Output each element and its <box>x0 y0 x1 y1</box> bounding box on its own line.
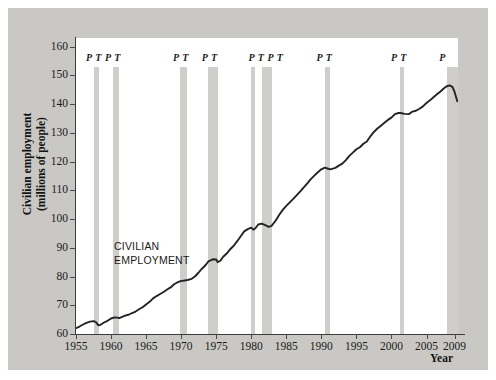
x-tick-label: 1970 <box>161 341 201 353</box>
peak-trough-label: P T <box>317 52 333 63</box>
peak-trough-label: P <box>439 52 446 63</box>
y-axis-title-line1: Civilian employment <box>20 64 34 264</box>
x-tick-label: 1990 <box>301 341 341 353</box>
x-tick-label: 1995 <box>336 341 376 353</box>
x-tick-label: 1985 <box>266 341 306 353</box>
x-axis-title: Year <box>430 352 453 364</box>
plot-area <box>76 38 458 334</box>
y-tick-mark <box>70 104 76 105</box>
x-tick-mark <box>356 334 357 339</box>
y-axis-title-line2: (millions of people) <box>34 64 48 264</box>
peak-trough-label: P T <box>86 52 102 63</box>
x-tick-mark <box>111 334 112 339</box>
peak-trough-label: P T <box>391 52 407 63</box>
x-tick-mark <box>146 334 147 339</box>
y-tick-mark <box>70 305 76 306</box>
x-tick-mark <box>455 334 456 339</box>
x-tick-mark <box>286 334 287 339</box>
y-tick-mark <box>70 219 76 220</box>
chart-plot-wrapper: 60708090100110120130140150160 1955196019… <box>0 0 496 380</box>
x-tick-label: 1975 <box>196 341 236 353</box>
y-tick-label: 70 <box>42 299 68 311</box>
x-tick-label: 1965 <box>126 341 166 353</box>
y-tick-mark <box>70 190 76 191</box>
y-tick-mark <box>70 133 76 134</box>
y-tick-mark <box>70 47 76 48</box>
x-tick-label: 1980 <box>231 341 271 353</box>
peak-trough-label: P T <box>202 52 218 63</box>
series-annotation-line1: CIVILIAN <box>114 239 190 253</box>
y-tick-mark <box>70 248 76 249</box>
x-tick-mark <box>251 334 252 339</box>
y-tick-mark <box>70 162 76 163</box>
x-tick-label: 2009 <box>435 341 475 353</box>
x-tick-label: 2000 <box>371 341 411 353</box>
x-tick-mark <box>391 334 392 339</box>
x-axis-line <box>75 334 465 335</box>
peak-trough-label: P T <box>173 52 189 63</box>
series-annotation-label: CIVILIAN EMPLOYMENT <box>114 239 190 267</box>
employment-line-series <box>76 38 458 334</box>
x-tick-mark <box>76 334 77 339</box>
y-tick-label: 160 <box>42 41 68 53</box>
x-tick-label: 1955 <box>56 341 96 353</box>
y-tick-mark <box>70 277 76 278</box>
y-tick-label: 60 <box>42 328 68 340</box>
x-tick-mark <box>181 334 182 339</box>
peak-trough-label: P T P T <box>249 52 284 63</box>
chart-figure: 60708090100110120130140150160 1955196019… <box>0 0 496 380</box>
x-tick-mark <box>321 334 322 339</box>
y-axis-line <box>75 37 76 335</box>
y-axis-title: Civilian employment (millions of people) <box>20 64 48 264</box>
y-tick-mark <box>70 75 76 76</box>
x-tick-label: 1960 <box>91 341 131 353</box>
y-tick-label: 80 <box>42 271 68 283</box>
series-annotation-line2: EMPLOYMENT <box>114 253 190 267</box>
peak-trough-label: P T <box>105 52 121 63</box>
x-tick-mark <box>216 334 217 339</box>
x-tick-mark <box>427 334 428 339</box>
